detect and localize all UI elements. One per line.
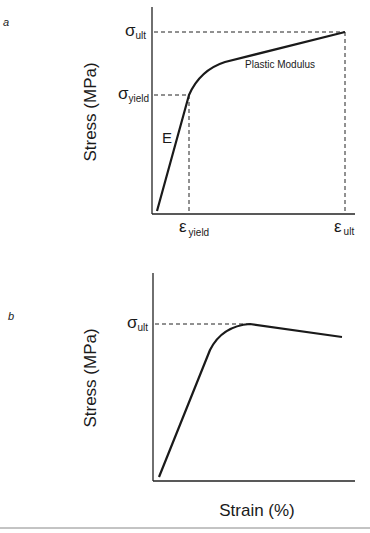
panel-b-y-axis-label: Stress (MPa) bbox=[81, 328, 100, 427]
panel-b-x-axis-label: Strain (%) bbox=[219, 501, 295, 520]
panel-b-sigma-ult-label: σult bbox=[127, 313, 148, 333]
panel-a-plastic-modulus-label: Plastic Modulus bbox=[245, 59, 315, 70]
panel-a-eps-yield-label: εyield bbox=[179, 217, 209, 238]
panel-a-eps-ult-label: εult bbox=[334, 217, 354, 237]
panel-a-sigma-yield-label: σyield bbox=[118, 84, 149, 104]
panel-b-label: b bbox=[8, 310, 14, 322]
panel-a-elastic-modulus-label: E bbox=[162, 129, 172, 146]
panel-a: a Stress (MPa) σult σyield εyield εult E… bbox=[3, 7, 355, 238]
panel-a-y-axis-label: Stress (MPa) bbox=[81, 62, 100, 161]
panel-b: b Stress (MPa) σult Strain (%) bbox=[8, 273, 355, 520]
panel-b-stress-strain-curve bbox=[159, 324, 342, 477]
panel-a-label: a bbox=[3, 16, 9, 28]
panel-a-sigma-ult-label: σult bbox=[125, 21, 146, 41]
figure: a Stress (MPa) σult σyield εyield εult E… bbox=[0, 0, 370, 533]
